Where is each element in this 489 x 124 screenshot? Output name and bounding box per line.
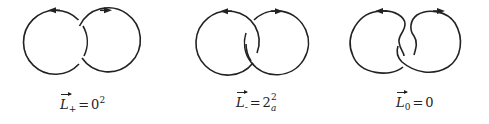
rhs-subscript: a [271, 104, 276, 113]
rhs-base: 0 [425, 95, 433, 110]
label-l-zero: L0=0 [396, 96, 434, 112]
subscript-zero: 0 [405, 102, 411, 112]
right-component [244, 11, 308, 75]
right-component [397, 11, 460, 72]
panel-l-minus-diagram [196, 11, 309, 75]
vector-l-symbol: L [60, 98, 69, 111]
vector-l-symbol: L [236, 96, 245, 109]
left-component [24, 10, 79, 74]
label-l-minus: L-=22a [236, 96, 278, 112]
panel-l-plus-diagram [24, 8, 141, 74]
equals-sign: = [250, 95, 261, 110]
equals-sign: = [78, 97, 89, 112]
right-component [80, 8, 141, 72]
rhs-superscript: 2 [99, 95, 105, 105]
rhs-superscript: 2 [271, 93, 277, 102]
subscript-plus: + [69, 104, 77, 114]
rhs-base: 2 [263, 95, 271, 110]
left-component-inner-arc [83, 26, 87, 56]
rhs-supsub: 2a [271, 99, 278, 109]
panel-l-zero-diagram [350, 11, 460, 73]
subscript-minus: - [245, 102, 248, 112]
left-component [196, 11, 259, 75]
label-l-plus: L+=02 [60, 96, 105, 114]
vector-l-symbol: L [396, 96, 405, 109]
left-component [350, 11, 405, 73]
equals-sign: = [412, 95, 423, 110]
